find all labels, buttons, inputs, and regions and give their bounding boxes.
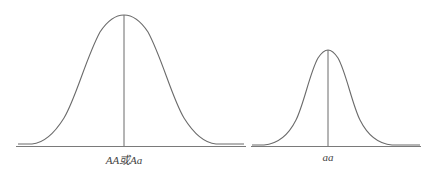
curve-dominant [18, 15, 244, 144]
label-recessive: aa [323, 151, 334, 163]
label-dominant: AA或Aa [106, 151, 143, 167]
curve-recessive [252, 50, 420, 145]
distribution-diagram: AA或Aa aa [0, 0, 435, 173]
